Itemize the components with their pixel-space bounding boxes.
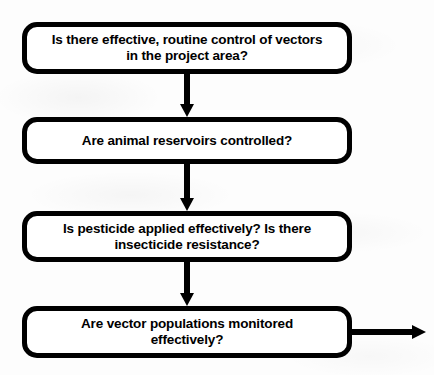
arrow-head-down-icon [180,198,194,211]
flowchart-node-label: Are animal reservoirs controlled? [72,133,302,149]
arrow-stem [352,329,412,335]
arrow-head-down-icon [180,293,194,306]
arrow-stem [184,164,190,198]
flowchart-node-vector-monitoring[interactable]: Are vector populations monitored effecti… [22,306,352,358]
flowchart-node-label: Is there effective, routine control of v… [42,32,333,64]
arrow-head-down-icon [180,104,194,117]
arrow-head-right-icon [412,325,426,339]
flowchart-node-label: Is pesticide applied effectively? Is the… [53,221,321,253]
flowchart-arrow-vector-monitoring-exit [352,329,424,335]
flowchart-arrow-animal-reservoirs-to-pesticide-applied [184,164,190,211]
arrow-stem [184,262,190,293]
flowchart-node-pesticide-applied[interactable]: Is pesticide applied effectively? Is the… [22,211,352,262]
flowchart-node-vector-control[interactable]: Is there effective, routine control of v… [22,22,352,74]
arrow-stem [184,74,190,104]
flowchart-arrow-vector-control-to-animal-reservoirs [184,74,190,117]
flowchart-arrow-pesticide-applied-to-vector-monitoring [184,262,190,306]
flowchart-node-label: Are vector populations monitored effecti… [71,316,303,348]
flowchart-node-animal-reservoirs[interactable]: Are animal reservoirs controlled? [22,117,352,164]
flowchart-canvas: Is there effective, routine control of v… [0,0,434,375]
